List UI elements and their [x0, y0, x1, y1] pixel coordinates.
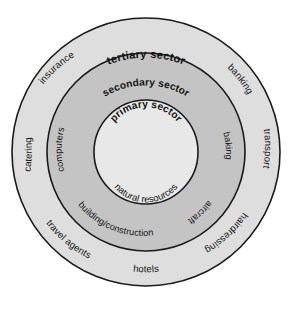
tertiary-item-catering-text: catering	[21, 137, 34, 172]
tertiary-item-catering: catering	[21, 137, 34, 172]
tertiary-item-transport-text: transport	[261, 128, 274, 170]
tertiary-item-hotels-text: hotels	[133, 263, 160, 275]
sector-diagram-container: tertiary sector secondary sector primary…	[0, 0, 292, 311]
tertiary-item-transport: transport	[261, 128, 274, 170]
concentric-sector-diagram: tertiary sector secondary sector primary…	[0, 0, 292, 311]
tertiary-item-hotels: hotels	[133, 263, 160, 275]
